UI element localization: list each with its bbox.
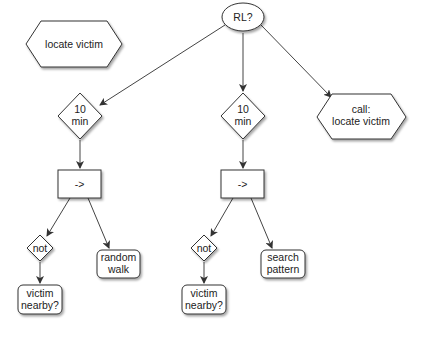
node-sequence-mid[interactable]: -> bbox=[221, 170, 264, 198]
node-sequence-mid-label: -> bbox=[238, 178, 248, 190]
node-locate-victim-label: locate victim bbox=[45, 38, 103, 50]
node-timer-mid-line2: min bbox=[235, 115, 252, 127]
node-search-pattern-line1: search bbox=[267, 251, 299, 263]
node-victim-nearby-left[interactable]: victim nearby? bbox=[18, 285, 62, 314]
node-call-locate-victim[interactable]: call: locate victim bbox=[317, 94, 406, 139]
node-victim-mid-line1: victim bbox=[191, 287, 218, 299]
node-rl-label: RL? bbox=[233, 11, 252, 23]
edge-seq-left-to-random-walk bbox=[88, 198, 109, 248]
node-random-walk-line2: walk bbox=[107, 263, 130, 275]
node-victim-left-line2: nearby? bbox=[21, 299, 59, 311]
node-rl[interactable]: RL? bbox=[222, 3, 264, 31]
node-victim-mid-line2: nearby? bbox=[185, 299, 223, 311]
node-not-mid-label: not bbox=[197, 242, 212, 254]
node-timer-left[interactable]: 10 min bbox=[58, 93, 102, 139]
node-not-left-label: not bbox=[33, 242, 48, 254]
node-not-left[interactable]: not bbox=[27, 235, 53, 261]
node-timer-left-line2: min bbox=[72, 115, 89, 127]
node-random-walk-line1: random bbox=[101, 251, 137, 263]
node-victim-nearby-mid[interactable]: victim nearby? bbox=[182, 285, 226, 314]
edge-rl-to-call-locate bbox=[261, 25, 331, 97]
node-call-locate-line1: call: bbox=[352, 103, 371, 115]
behavior-tree-diagram: locate victim RL? 10 min 10 min call: lo… bbox=[0, 0, 425, 337]
node-locate-victim[interactable]: locate victim bbox=[26, 21, 122, 67]
node-timer-left-line1: 10 bbox=[74, 103, 86, 115]
edge-seq-mid-to-search-pattern bbox=[251, 198, 272, 248]
node-random-walk[interactable]: random walk bbox=[97, 250, 140, 278]
node-victim-left-line1: victim bbox=[27, 287, 54, 299]
edge-rl-to-timer-left bbox=[100, 25, 225, 105]
node-sequence-left-label: -> bbox=[75, 178, 85, 190]
node-timer-mid-line1: 10 bbox=[237, 103, 249, 115]
node-timer-mid[interactable]: 10 min bbox=[221, 93, 265, 139]
node-search-pattern-line2: pattern bbox=[267, 263, 300, 275]
node-call-locate-line2: locate victim bbox=[332, 115, 390, 127]
node-sequence-left[interactable]: -> bbox=[58, 170, 101, 198]
node-search-pattern[interactable]: search pattern bbox=[261, 250, 305, 278]
edge-seq-left-to-not-left bbox=[47, 198, 70, 236]
node-not-mid[interactable]: not bbox=[191, 235, 217, 261]
edge-seq-mid-to-not-mid bbox=[211, 198, 233, 236]
